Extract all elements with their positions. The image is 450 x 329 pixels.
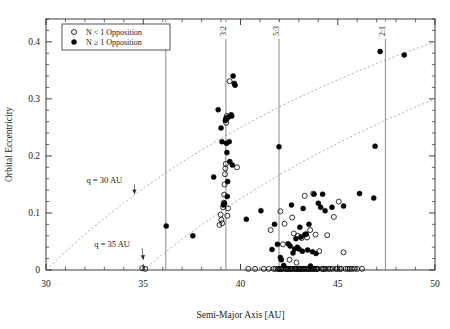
- data-point-filled: [308, 264, 313, 269]
- data-point-filled: [211, 175, 216, 180]
- y-tick-label: 0.2: [28, 151, 40, 161]
- legend-label: N < 1 Opposition: [86, 28, 142, 37]
- data-point-filled: [402, 52, 407, 57]
- data-point-filled: [224, 150, 229, 155]
- data-point-filled: [289, 202, 294, 207]
- data-point-filled: [301, 206, 306, 211]
- data-point-filled: [222, 201, 227, 206]
- x-tick-label: 35: [139, 279, 149, 289]
- data-point-filled: [281, 263, 286, 268]
- y-tick-label: 0.4: [28, 37, 40, 47]
- data-point-filled: [306, 222, 311, 227]
- data-point-filled: [227, 139, 232, 144]
- scatter-plot: 303540455000.10.20.30.4Semi-Major Axis […: [0, 0, 450, 329]
- x-axis-label: Semi-Major Axis [AU]: [196, 310, 284, 320]
- figure-container: 303540455000.10.20.30.4Semi-Major Axis […: [0, 0, 450, 329]
- data-point-filled: [341, 204, 346, 209]
- q30-label: q = 30 AU: [86, 175, 122, 185]
- data-point-filled: [323, 208, 328, 213]
- data-point-filled: [219, 125, 224, 130]
- legend-label: N ≥ 1 Opposition: [86, 38, 142, 47]
- x-tick-label: 45: [333, 279, 343, 289]
- data-point-filled: [244, 217, 249, 222]
- data-point-filled: [297, 225, 302, 230]
- svg-text:3:2: 3:2: [219, 26, 228, 36]
- data-point-filled: [371, 196, 376, 201]
- svg-text:5:3: 5:3: [272, 26, 281, 36]
- data-point-filled: [230, 163, 235, 168]
- data-point-filled: [225, 194, 230, 199]
- data-point-filled: [329, 205, 334, 210]
- data-point-filled: [231, 74, 236, 79]
- x-tick-label: 50: [430, 279, 440, 289]
- data-point-filled: [288, 244, 293, 249]
- data-point-filled: [277, 144, 282, 149]
- data-point-filled: [275, 242, 280, 247]
- y-tick-label: 0: [35, 265, 40, 275]
- x-tick-label: 30: [41, 279, 51, 289]
- data-point-filled: [320, 192, 325, 197]
- data-point-filled: [313, 251, 318, 256]
- data-point-filled: [272, 222, 277, 227]
- data-point-filled: [190, 233, 195, 238]
- legend-marker-filled: [72, 40, 77, 45]
- data-point-filled: [233, 83, 238, 88]
- data-point-filled: [270, 247, 275, 252]
- svg-text:2:1: 2:1: [378, 26, 387, 36]
- data-point-filled: [225, 179, 230, 184]
- data-point-filled: [304, 232, 309, 237]
- q35-label: q = 35 AU: [94, 239, 130, 249]
- data-point-filled: [318, 205, 323, 210]
- y-tick-label: 0.3: [28, 94, 40, 104]
- data-point-filled: [378, 49, 383, 54]
- data-point-filled: [279, 257, 284, 262]
- data-point-filled: [216, 107, 221, 112]
- x-tick-label: 40: [236, 279, 246, 289]
- data-point-filled: [229, 113, 234, 118]
- data-point-filled: [258, 208, 263, 213]
- data-point-filled: [305, 248, 310, 253]
- data-point-filled: [312, 192, 317, 197]
- data-point-filled: [164, 224, 169, 229]
- data-point-filled: [357, 191, 362, 196]
- y-axis-label: Orbital Eccentricity: [4, 107, 14, 182]
- data-point-filled: [300, 249, 305, 254]
- data-point-filled: [293, 236, 298, 241]
- data-point-filled: [373, 144, 378, 149]
- y-tick-label: 0.1: [28, 208, 40, 218]
